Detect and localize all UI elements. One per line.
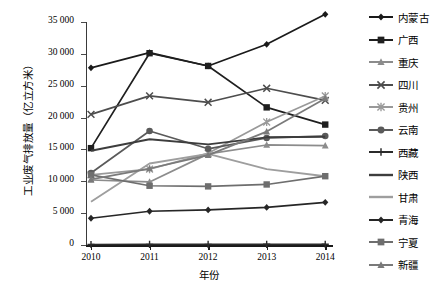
data-point-marker-square — [146, 50, 152, 56]
legend-marker-diamond-icon — [368, 11, 394, 23]
legend-label: 陕西 — [398, 167, 419, 182]
data-point-marker-circle — [146, 128, 153, 135]
data-point-marker-diamond — [146, 208, 152, 215]
series-9 — [88, 199, 328, 222]
legend-label: 四川 — [398, 77, 419, 92]
data-point-marker-square — [205, 63, 211, 69]
legend-item-云南[interactable]: 云南 — [368, 119, 444, 142]
legend-item-陕西[interactable]: 陕西 — [368, 164, 444, 187]
legend-item-新疆[interactable]: 新疆 — [368, 254, 444, 277]
series-0 — [88, 11, 328, 71]
legend-label: 西藏 — [398, 145, 419, 160]
series-11 — [88, 95, 329, 182]
legend-marker-square-icon — [368, 34, 394, 46]
data-point-marker-square — [263, 104, 269, 110]
legend-label: 新疆 — [398, 257, 419, 272]
legend-item-宁夏[interactable]: 宁夏 — [368, 231, 444, 254]
legend-marker-star-icon — [368, 101, 394, 113]
legend-item-青海[interactable]: 青海 — [368, 209, 444, 232]
data-point-marker-plus — [263, 241, 270, 248]
legend-label: 内蒙古 — [398, 10, 429, 25]
legend-label: 青海 — [398, 212, 419, 227]
series-6 — [87, 241, 328, 248]
data-point-marker-diamond — [264, 41, 270, 48]
legend-item-甘肃[interactable]: 甘肃 — [368, 186, 444, 209]
legend-marker-plus-icon — [368, 146, 394, 158]
legend-label: 贵州 — [398, 100, 419, 115]
data-point-marker-diamond — [322, 199, 328, 206]
series-8 — [91, 154, 325, 202]
data-point-marker-plus — [322, 241, 329, 248]
data-point-marker-square — [378, 239, 385, 246]
legend-label: 云南 — [398, 122, 419, 137]
data-point-marker-diamond — [378, 14, 385, 21]
legend-item-四川[interactable]: 四川 — [368, 74, 444, 97]
legend-marker-none-icon — [368, 191, 394, 203]
legend: 内蒙古广西重庆四川贵州云南西藏陕西甘肃青海宁夏新疆 — [368, 6, 444, 276]
legend-marker-none-icon — [368, 169, 394, 181]
data-point-marker-square — [205, 183, 211, 189]
legend-marker-diamond-icon — [368, 214, 394, 226]
data-point-marker-diamond — [88, 64, 94, 71]
legend-label: 宁夏 — [398, 235, 419, 250]
line-chart: 工业废气排放量（亿立方米） 05 00010 00015 00020 00025… — [0, 0, 444, 289]
series-3 — [88, 85, 329, 118]
data-point-marker-plus — [377, 148, 385, 156]
data-point-marker-plus — [87, 241, 94, 248]
data-point-marker-diamond — [322, 11, 328, 18]
legend-item-贵州[interactable]: 贵州 — [368, 96, 444, 119]
legend-item-广西[interactable]: 广西 — [368, 29, 444, 52]
data-point-marker-square — [378, 36, 385, 43]
data-point-marker-diamond — [205, 207, 211, 214]
data-point-marker-diamond — [264, 204, 270, 211]
series-4 — [88, 92, 329, 179]
data-point-marker-plus — [146, 241, 153, 248]
data-point-marker-square — [263, 181, 269, 187]
legend-label: 广西 — [398, 32, 419, 47]
data-point-marker-plus — [205, 241, 212, 248]
data-point-marker-square — [146, 183, 152, 189]
legend-item-内蒙古[interactable]: 内蒙古 — [368, 6, 444, 29]
data-point-marker-star — [263, 118, 270, 126]
legend-marker-triangle-icon — [368, 259, 394, 271]
legend-label: 重庆 — [398, 55, 419, 70]
legend-item-重庆[interactable]: 重庆 — [368, 51, 444, 74]
data-point-marker-circle — [205, 145, 212, 152]
data-point-marker-diamond — [378, 216, 385, 223]
data-point-marker-square — [322, 121, 328, 127]
series-10 — [88, 172, 329, 190]
data-point-marker-square — [322, 173, 328, 179]
legend-marker-square-icon — [368, 236, 394, 248]
legend-label: 甘肃 — [398, 190, 419, 205]
data-point-marker-circle — [378, 126, 385, 133]
legend-marker-circle-icon — [368, 124, 394, 136]
legend-marker-triangle-icon — [368, 56, 394, 68]
legend-item-西藏[interactable]: 西藏 — [368, 141, 444, 164]
data-point-marker-diamond — [88, 215, 94, 222]
legend-marker-cross-icon — [368, 79, 394, 91]
